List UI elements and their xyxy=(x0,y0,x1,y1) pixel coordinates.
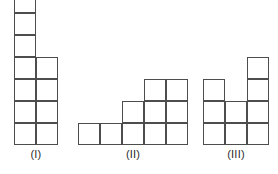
grid-cell xyxy=(36,57,58,79)
grid-cell xyxy=(247,57,269,79)
grid-cell xyxy=(78,123,100,145)
grid-cell xyxy=(122,101,144,123)
grid-cell xyxy=(36,123,58,145)
block-figure-1 xyxy=(14,0,58,145)
grid-cell xyxy=(14,101,36,123)
grid-cell xyxy=(144,79,166,101)
grid-cell xyxy=(203,123,225,145)
grid-cell xyxy=(14,79,36,101)
grid-cell xyxy=(14,35,36,57)
grid-cell xyxy=(14,13,36,35)
grid-cell xyxy=(144,123,166,145)
grid-cell xyxy=(203,79,225,101)
block-figure-3 xyxy=(203,57,269,145)
grid-cell xyxy=(247,123,269,145)
grid-cell xyxy=(36,79,58,101)
grid-cell xyxy=(36,101,58,123)
block-figure-2 xyxy=(78,79,188,145)
grid-cell xyxy=(14,0,36,13)
grid-cell xyxy=(14,57,36,79)
grid-cell xyxy=(166,79,188,101)
grid-cell xyxy=(100,123,122,145)
figure-label-3: (III) xyxy=(203,148,269,160)
grid-cell xyxy=(225,123,247,145)
figure-label-1: (I) xyxy=(14,148,58,160)
grid-cell xyxy=(122,123,144,145)
grid-cell xyxy=(166,123,188,145)
grid-cell xyxy=(203,101,225,123)
grid-cell xyxy=(166,101,188,123)
figures-canvas: (I)(II)(III) xyxy=(0,0,278,174)
grid-cell xyxy=(247,79,269,101)
grid-cell xyxy=(247,101,269,123)
figure-label-2: (II) xyxy=(78,148,188,160)
grid-cell xyxy=(225,101,247,123)
grid-cell xyxy=(144,101,166,123)
grid-cell xyxy=(14,123,36,145)
